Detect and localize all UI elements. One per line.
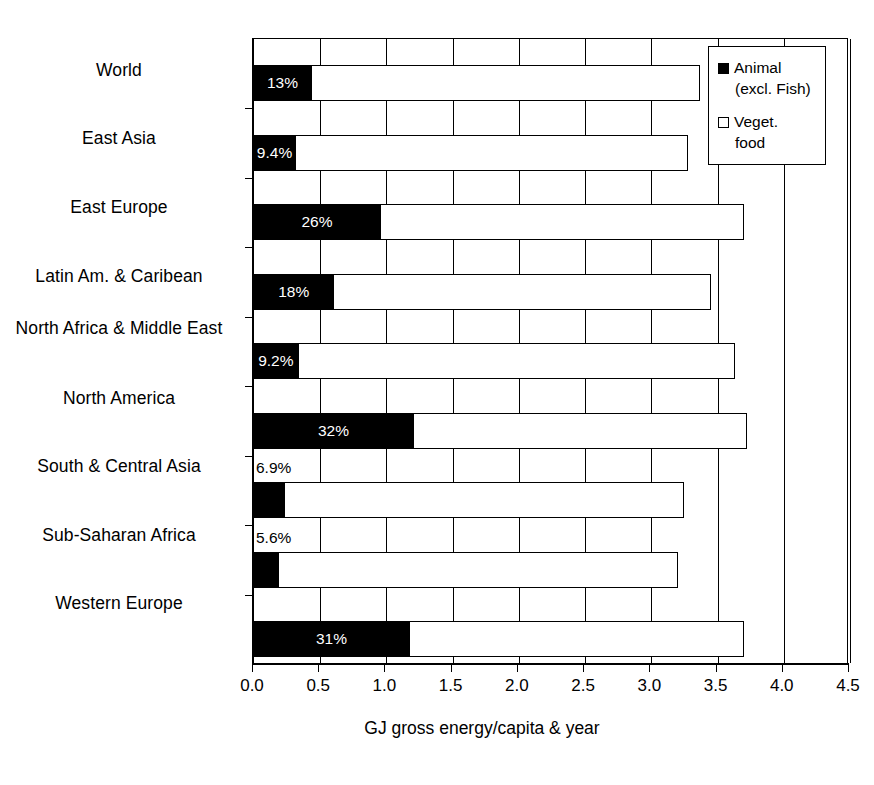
- category-label-north-america: North America: [0, 388, 238, 409]
- bar-segment-vegetal: [284, 482, 684, 518]
- legend-label-vegetal-line2: food: [735, 132, 778, 153]
- x-axis-title: GJ gross energy/capita & year: [252, 718, 712, 739]
- bar-value-label: 26%: [254, 204, 380, 240]
- x-tick-label: 3.5: [686, 676, 746, 696]
- x-tick-label: 3.0: [619, 676, 679, 696]
- x-tick-mark: [848, 663, 849, 672]
- x-tick-label: 4.0: [752, 676, 812, 696]
- x-tick-mark: [318, 663, 319, 672]
- y-tick-mark: [245, 247, 254, 248]
- x-tick-mark: [716, 663, 717, 672]
- bar-segment-vegetal: [311, 65, 700, 101]
- category-label-western-europe: Western Europe: [0, 593, 238, 614]
- bar-row: 9.2%: [254, 343, 850, 379]
- bar-value-label: 9.2%: [254, 343, 298, 379]
- x-tick-label: 2.5: [553, 676, 613, 696]
- bar-value-label: 9.4%: [254, 135, 295, 171]
- bar-value-label: 18%: [254, 274, 333, 310]
- x-tick-label: 2.0: [487, 676, 547, 696]
- y-tick-mark: [245, 317, 254, 318]
- legend-label-animal-line2: (excl. Fish): [735, 78, 811, 99]
- x-tick-mark: [252, 663, 253, 672]
- x-tick-mark: [451, 663, 452, 672]
- legend-item-vegetal: Veget. food: [718, 111, 778, 153]
- category-label-latin-america: Latin Am. & Caribean: [0, 266, 238, 287]
- bar-segment-vegetal: [298, 343, 735, 379]
- category-label-world: World: [0, 60, 238, 81]
- x-tick-label: 0.0: [222, 676, 282, 696]
- x-tick-label: 1.0: [354, 676, 414, 696]
- x-tick-label: 1.5: [421, 676, 481, 696]
- bar-segment-animal: [254, 482, 284, 518]
- x-tick-mark: [384, 663, 385, 672]
- bar-row: 31%: [254, 621, 850, 657]
- bar-value-label: 13%: [254, 65, 311, 101]
- legend-item-animal: Animal (excl. Fish): [718, 57, 811, 99]
- x-tick-mark: [517, 663, 518, 672]
- x-tick-mark: [583, 663, 584, 672]
- bar-value-label: 32%: [254, 413, 413, 449]
- bar-row: 32%: [254, 413, 850, 449]
- filled-square-icon: [718, 63, 729, 74]
- bar-segment-vegetal: [380, 204, 744, 240]
- x-axis-line: [252, 663, 849, 665]
- bar-segment-vegetal: [295, 135, 688, 171]
- category-axis-labels: World East Asia East Europe Latin Am. & …: [0, 38, 244, 663]
- bar-value-label: 5.6%: [256, 524, 291, 552]
- x-tick-label: 4.5: [818, 676, 874, 696]
- bar-value-label: 6.9%: [256, 454, 291, 482]
- y-tick-mark: [245, 108, 254, 109]
- y-tick-mark: [245, 595, 254, 596]
- bar-segment-vegetal: [333, 274, 710, 310]
- bar-value-label: 31%: [254, 621, 409, 657]
- bar-segment-vegetal: [278, 552, 678, 588]
- gridline: [850, 39, 851, 663]
- bar-segment-vegetal: [413, 413, 747, 449]
- legend-label-animal-line1: Animal: [734, 59, 781, 76]
- bar-segment-animal: [254, 552, 278, 588]
- legend-label-vegetal-line1: Veget.: [734, 113, 778, 130]
- bar-row: 18%: [254, 274, 850, 310]
- stacked-bar-chart: World East Asia East Europe Latin Am. & …: [0, 0, 874, 785]
- bar-row: 5.6%: [254, 552, 850, 588]
- y-tick-mark: [245, 456, 254, 457]
- x-tick-label: 0.5: [288, 676, 348, 696]
- category-label-east-asia: East Asia: [0, 128, 238, 149]
- x-tick-mark: [649, 663, 650, 672]
- bar-row: 26%: [254, 204, 850, 240]
- category-label-south-asia: South & Central Asia: [0, 456, 238, 477]
- category-label-sub-saharan: Sub-Saharan Africa: [0, 525, 238, 546]
- chart-legend: Animal (excl. Fish) Veget. food: [708, 46, 826, 165]
- bar-segment-vegetal: [409, 621, 744, 657]
- y-tick-mark: [245, 386, 254, 387]
- category-label-east-europe: East Europe: [0, 197, 238, 218]
- y-tick-mark: [245, 525, 254, 526]
- x-tick-mark: [782, 663, 783, 672]
- open-square-icon: [718, 117, 729, 128]
- y-tick-mark: [245, 178, 254, 179]
- category-label-north-africa: North Africa & Middle East: [0, 318, 238, 339]
- bar-row: 6.9%: [254, 482, 850, 518]
